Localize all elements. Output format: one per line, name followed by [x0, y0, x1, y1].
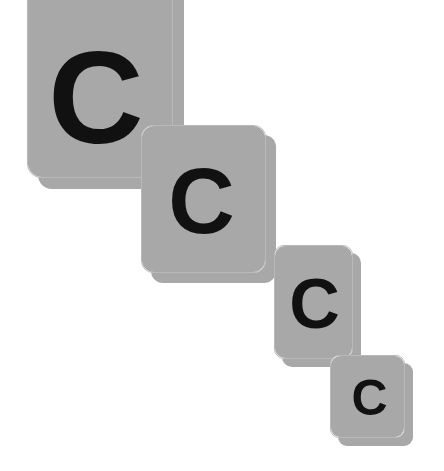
card-4-letter: C	[351, 373, 387, 423]
card-1-letter: C	[48, 32, 143, 164]
card-2[interactable]: C	[141, 125, 266, 273]
card-2-letter: C	[168, 155, 234, 247]
card-4[interactable]: C	[330, 355, 405, 438]
card-3-letter: C	[289, 269, 340, 339]
card-stack-canvas: CCCC	[0, 0, 444, 471]
card-3[interactable]: C	[274, 245, 353, 359]
